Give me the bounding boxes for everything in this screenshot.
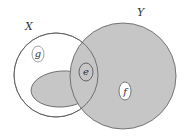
element-g-label: g xyxy=(35,48,41,59)
element-e-label: e xyxy=(83,66,89,77)
set-x-label: X xyxy=(24,20,34,33)
venn-diagram: X Y g e f xyxy=(0,0,185,140)
set-y-label: Y xyxy=(137,6,146,19)
